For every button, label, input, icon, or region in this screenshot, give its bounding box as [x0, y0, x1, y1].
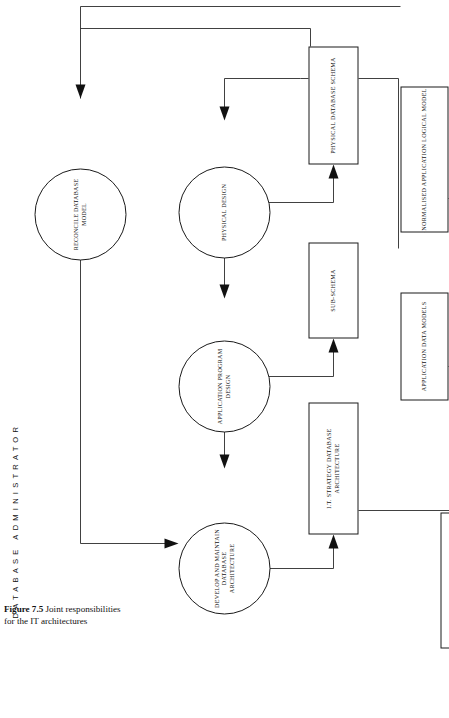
datastore-label: APPLICATION DATA MODELS: [420, 301, 428, 391]
process-label: APPLICATION PROGRAM DESIGN: [216, 341, 231, 431]
datastore-label: I.T. STRATEGY DATABASE ARCHITECTURE: [325, 403, 341, 533]
datastore-sub-schema[interactable]: SUB-SCHEMA: [308, 242, 358, 338]
datastore-physical-database-schema[interactable]: PHYSICAL DATABASE SCHEMA: [308, 46, 358, 164]
figure-page: DATABASE ADMINISTRATOR DATA ADMINISTRATO…: [0, 0, 449, 718]
datastore-application-data-models[interactable]: APPLICATION DATA MODELS: [400, 292, 448, 400]
figure-caption: Figure 7.5 Joint responsibilities for th…: [4, 604, 124, 627]
datastore-it-strategy-database-architecture[interactable]: I.T. STRATEGY DATABASE ARCHITECTURE: [308, 402, 358, 534]
process-reconcile-database-model[interactable]: RECONCILE DATABASE MODEL: [34, 168, 126, 260]
process-label: RECONCILE DATABASE MODEL: [72, 169, 87, 259]
process-label: DEVELOP AND MAINTAIN DATABASE ARCHITECTU…: [213, 523, 236, 613]
process-application-program-design[interactable]: APPLICATION PROGRAM DESIGN: [178, 340, 270, 432]
process-label: PHYSICAL DESIGN: [220, 180, 228, 243]
datastore-normalised-application-logical-model[interactable]: NORMALISED APPLICATION LOGICAL MODEL: [400, 86, 448, 232]
datastore-label: PHYSICAL DATABASE SCHEMA: [329, 57, 337, 154]
datastore-it-strategy-corporate-data-architecture[interactable]: I.T. STRATEGY CORPORATE DATA ARCHITECTUR…: [440, 512, 449, 648]
process-develop-maintain-database-architecture[interactable]: DEVELOP AND MAINTAIN DATABASE ARCHITECTU…: [178, 522, 270, 614]
datastore-label: NORMALISED APPLICATION LOGICAL MODEL: [420, 88, 428, 230]
datastore-label: SUB-SCHEMA: [329, 269, 337, 311]
process-physical-design[interactable]: PHYSICAL DESIGN: [178, 166, 270, 258]
figure-caption-label: Figure 7.5: [4, 604, 43, 614]
